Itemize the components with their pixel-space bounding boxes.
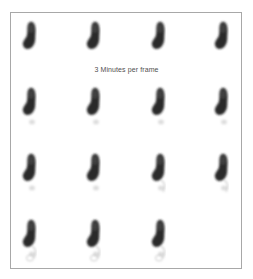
scan-frame — [208, 150, 238, 200]
scan-frame — [80, 18, 110, 68]
scan-frame — [145, 150, 175, 200]
scan-frame — [145, 18, 175, 68]
scan-frame — [16, 84, 46, 134]
scan-frame — [80, 84, 110, 134]
scan-frame — [80, 150, 110, 200]
scan-frame — [16, 18, 46, 68]
scan-frame — [16, 216, 46, 266]
scan-frame — [80, 216, 110, 266]
scan-frame — [145, 216, 175, 266]
scan-frame — [145, 84, 175, 134]
scan-frame — [208, 84, 238, 134]
scan-frame — [208, 18, 238, 68]
scan-frame — [16, 150, 46, 200]
